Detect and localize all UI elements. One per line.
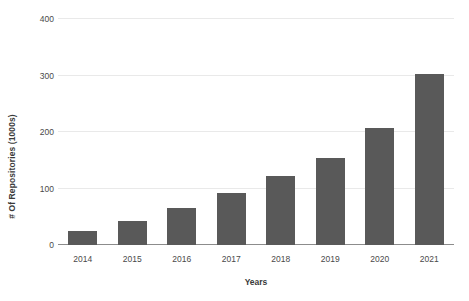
x-tick-label: 2015	[123, 254, 142, 264]
bar-slot	[58, 19, 108, 245]
y-axis-tick-labels: 0100200300400	[26, 0, 54, 301]
bars-layer	[58, 19, 454, 245]
bar-2019[interactable]	[316, 158, 345, 245]
x-tick-label: 2020	[370, 254, 389, 264]
bar-chart-figure: # Of Repositories (1000s) 0100200300400 …	[0, 0, 469, 301]
x-tick-label: 2017	[222, 254, 241, 264]
x-tick-slot: 2019	[306, 248, 356, 266]
bar-2018[interactable]	[266, 176, 295, 245]
x-tick-slot: 2021	[405, 248, 455, 266]
x-tick-slot: 2016	[157, 248, 207, 266]
bar-slot	[157, 19, 207, 245]
x-tick-label: 2021	[420, 254, 439, 264]
x-tick-label: 2019	[321, 254, 340, 264]
bar-2015[interactable]	[118, 221, 147, 245]
bar-2021[interactable]	[415, 74, 444, 245]
x-tick-slot: 2017	[207, 248, 257, 266]
bar-2017[interactable]	[217, 193, 246, 245]
x-tick-slot: 2020	[355, 248, 405, 266]
y-tick-label: 0	[28, 240, 54, 250]
x-tick-label: 2016	[172, 254, 191, 264]
y-tick-label: 300	[28, 71, 54, 81]
x-axis-title-text: Years	[245, 277, 268, 287]
bar-slot	[256, 19, 306, 245]
x-tick-label: 2018	[271, 254, 290, 264]
bar-2014[interactable]	[68, 231, 97, 245]
y-axis-title: # Of Repositories (1000s)	[0, 0, 24, 301]
x-axis-tick-labels: 20142015201620172018201920202021	[58, 248, 454, 264]
x-axis-title: Years	[58, 277, 454, 287]
x-tick-slot: 2014	[58, 248, 108, 266]
x-tick-slot: 2015	[108, 248, 158, 266]
bar-slot	[355, 19, 405, 245]
y-tick-label: 100	[28, 184, 54, 194]
y-tick-label: 400	[28, 14, 54, 24]
bar-slot	[207, 19, 257, 245]
bar-slot	[306, 19, 356, 245]
y-tick-label: 200	[28, 127, 54, 137]
x-tick-label: 2014	[73, 254, 92, 264]
x-tick-slot: 2018	[256, 248, 306, 266]
bar-2020[interactable]	[365, 128, 394, 245]
plot-area	[58, 19, 454, 245]
bar-slot	[405, 19, 455, 245]
bar-slot	[108, 19, 158, 245]
bar-2016[interactable]	[167, 208, 196, 245]
y-axis-title-text: # Of Repositories (1000s)	[7, 114, 17, 219]
